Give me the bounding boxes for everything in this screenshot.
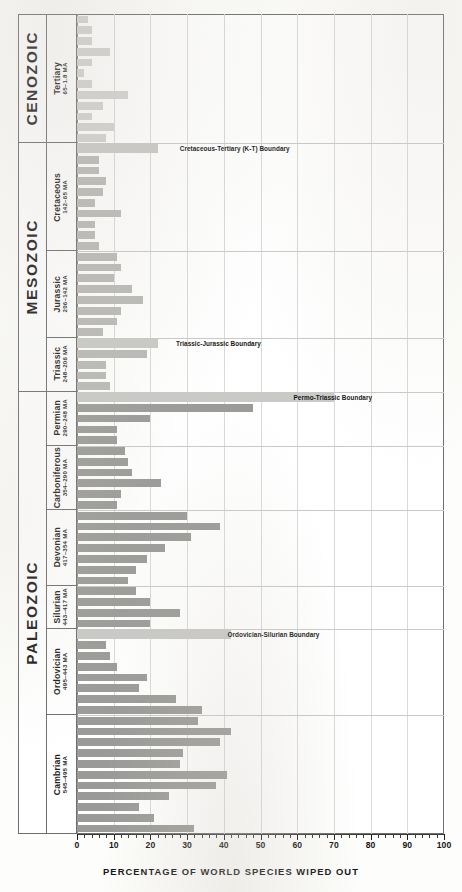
axis-tick-98 [437, 834, 438, 838]
axis-tick-82 [378, 834, 379, 838]
bar [77, 59, 92, 67]
axis-tick-4 [92, 834, 93, 838]
bar [77, 447, 125, 455]
plot-column: Cretaceous-Tertiary (K-T) BoundaryTriass… [77, 14, 444, 834]
axis-tick-44 [238, 834, 239, 838]
bar [77, 296, 143, 304]
bar [77, 37, 92, 45]
bar [77, 814, 154, 822]
bar [77, 652, 110, 660]
period-cell-carboniferous: Carboniferous354–290 MA [47, 446, 76, 511]
bar [77, 231, 95, 239]
axis-tick-68 [327, 834, 328, 838]
bar [77, 167, 99, 175]
axis-tick-92 [415, 834, 416, 838]
bar [77, 48, 110, 56]
period-rule [77, 446, 444, 447]
bar [77, 426, 117, 434]
period-label-group: Cretaceous142–65 MA [53, 173, 70, 222]
axis-tick-label-50: 50 [256, 840, 266, 850]
bar [77, 188, 103, 196]
axis-tick-16 [136, 834, 137, 838]
bar [77, 102, 103, 110]
gridline-80 [371, 14, 372, 834]
gridline-70 [334, 14, 335, 834]
period-label-group: Permian290–248 MA [53, 399, 70, 436]
boundary-label: Triassic-Jurassic Boundary [176, 340, 261, 347]
axis-tick-94 [422, 834, 423, 838]
bar [77, 328, 103, 336]
bar [77, 479, 161, 487]
period-cell-cretaceous: Cretaceous142–65 MA [47, 143, 76, 251]
axis-tick-36 [209, 834, 210, 838]
bar [77, 490, 121, 498]
era-cell-mesozoic: MESOZOIC [18, 143, 46, 391]
bar [77, 199, 95, 207]
axis-tick-52 [268, 834, 269, 838]
axis-tick-66 [319, 834, 320, 838]
bar [77, 16, 88, 24]
bar [77, 436, 117, 444]
axis-tick-6 [99, 834, 100, 838]
period-cell-devonian: Devonian417–354 MA [47, 510, 76, 586]
axis-tick-54 [275, 834, 276, 838]
period-age: 417–354 MA [62, 527, 69, 567]
period-age: 443–417 MA [62, 588, 69, 625]
bar [77, 307, 121, 315]
axis-tick-label-70: 70 [329, 840, 339, 850]
gridline-90 [407, 14, 408, 834]
bar [77, 242, 99, 250]
bar [77, 382, 110, 390]
axis-tick-74 [349, 834, 350, 838]
axis-tick-34 [202, 834, 203, 838]
period-age: 206–142 MA [62, 275, 69, 312]
axis-tick-2 [84, 834, 85, 838]
bar [77, 706, 202, 714]
period-age: 142–65 MA [62, 173, 69, 222]
period-age: 248–206 MA [62, 345, 69, 382]
axis-tick-24 [165, 834, 166, 838]
bar [77, 760, 180, 768]
period-rule [77, 629, 444, 630]
axis-tick-28 [180, 834, 181, 838]
axis-tick-8 [106, 834, 107, 838]
bar [77, 156, 99, 164]
bar [77, 123, 114, 131]
bar [77, 512, 187, 520]
period-age: 495–443 MA [62, 648, 69, 695]
era-cell-paleozoic: PALEOZOIC [18, 392, 46, 834]
period-rule [77, 510, 444, 511]
period-cell-cambrian: Cambrian545–495 MA [47, 715, 76, 834]
axis-tick-14 [128, 834, 129, 838]
bar [77, 749, 183, 757]
axis-tick-86 [393, 834, 394, 838]
period-cell-ordovician: Ordovician495–443 MA [47, 629, 76, 715]
axis-tick-84 [385, 834, 386, 838]
bar [77, 577, 128, 585]
period-cell-triassic: Triassic248–206 MA [47, 338, 76, 392]
extinction-chart: CENOZOICMESOZOICPALEOZOIC Tertiary65–1.8… [18, 14, 444, 834]
bar [77, 274, 114, 282]
period-label-group: Cambrian545–495 MA [53, 754, 70, 795]
axis-tick-12 [121, 834, 122, 838]
boundary-label: Permo-Triassic Boundary [294, 394, 373, 401]
bar [77, 210, 121, 218]
axis-tick-label-90: 90 [403, 840, 413, 850]
axis-tick-26 [172, 834, 173, 838]
axis-tick-42 [231, 834, 232, 838]
period-label-group: Tertiary65–1.8 MA [53, 62, 70, 95]
axis-tick-48 [253, 834, 254, 838]
bar [77, 825, 194, 833]
period-rule [77, 251, 444, 252]
axis-tick-label-0: 0 [75, 840, 80, 850]
boundary-label: Ordovician-Silurian Boundary [227, 631, 319, 638]
axis-tick-label-20: 20 [146, 840, 156, 850]
bar [77, 674, 147, 682]
bar [77, 264, 121, 272]
axis-tick-76 [356, 834, 357, 838]
axis-tick-label-60: 60 [292, 840, 302, 850]
axis-tick-label-100: 100 [437, 840, 451, 850]
period-label-group: Triassic248–206 MA [53, 345, 70, 382]
axis-tick-78 [363, 834, 364, 838]
axis-tick-46 [246, 834, 247, 838]
